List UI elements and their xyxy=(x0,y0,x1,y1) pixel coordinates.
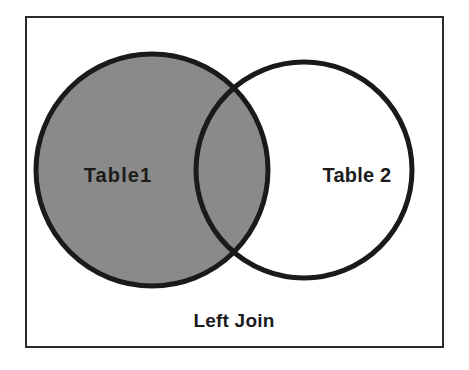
set-label-table1: Table1 xyxy=(84,164,152,187)
set-label-table2: Table 2 xyxy=(323,164,392,187)
venn-diagram-container: Table1 Table 2 Left Join xyxy=(0,0,469,370)
diagram-caption: Left Join xyxy=(194,310,275,332)
